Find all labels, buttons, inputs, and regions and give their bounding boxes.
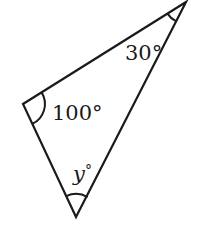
angle-arc-bottom [66, 194, 87, 197]
angle-label-bottom: y° [72, 162, 92, 186]
angle-label-left: 100° [52, 101, 103, 125]
triangle-diagram: 30° 100° y° [0, 0, 200, 237]
triangle-outline [23, 2, 186, 217]
angle-label-top: 30° [125, 41, 162, 65]
angle-arc-top [168, 14, 177, 22]
degree-symbol: ° [85, 162, 92, 178]
